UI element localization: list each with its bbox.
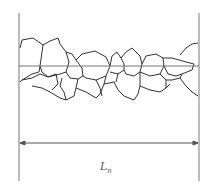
- length-label: Ln: [100, 160, 112, 175]
- dimension-arrow: [20, 141, 198, 145]
- grain-boundaries: [20, 38, 198, 100]
- length-label-subscript: n: [107, 167, 112, 175]
